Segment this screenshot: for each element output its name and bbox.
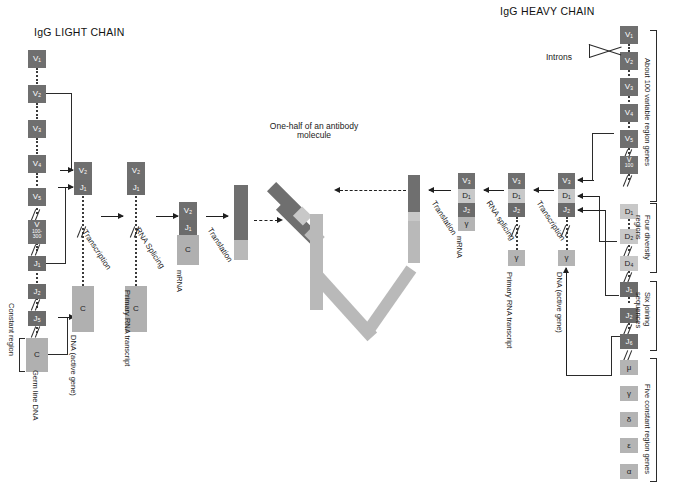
bracket-joining-sequences	[656, 281, 657, 351]
heavy-active-gene-label: DNA (active gene)	[555, 272, 564, 333]
light-splicing-label: RNA Splicing	[133, 226, 166, 270]
connector-arrow	[58, 187, 73, 188]
bracket-label-constant-region: Five constant region genes	[643, 384, 652, 484]
heavy-mrna-j: J₂	[458, 203, 475, 217]
sequence-break	[559, 225, 573, 237]
heavy-chain-polypeptide-tail	[362, 266, 417, 337]
bracket-label-diversity-region: Four diversity regions	[634, 215, 652, 275]
heavy-v-gene-5: V₅	[620, 130, 638, 148]
intron-dots	[36, 173, 38, 186]
heavy-transcript-j: J₂	[508, 203, 525, 217]
heavy-assembly-dashed-arrow	[340, 190, 406, 191]
bracket-tick	[19, 338, 25, 339]
light-active-v: V₂	[74, 162, 92, 180]
sequence-break	[29, 244, 43, 256]
diagram-canvas: IgG LIGHT CHAIN IgG HEAVY CHAIN One-half…	[0, 0, 685, 497]
introns-pointer-line	[589, 44, 622, 56]
light-chain-polypeptide-variable	[234, 185, 248, 240]
heavy-c-gene-delta: δ	[620, 412, 638, 427]
light-j-gene-2: J₂	[28, 284, 46, 299]
bracket-label-joining-sequences: Six joining sequences	[634, 292, 652, 354]
heavy-transcript-d: D₁	[508, 189, 525, 203]
light-active-j: J₁	[74, 180, 92, 195]
connector-line	[65, 188, 66, 264]
bracket-constant-region	[656, 358, 657, 482]
connector-line	[605, 210, 606, 296]
heavy-v-gene-1: V₁	[620, 26, 638, 44]
heavy-assembly-arrowhead	[334, 187, 340, 193]
connector-line	[46, 93, 72, 94]
sequence-break	[621, 175, 635, 187]
light-j-gene-3: J₅	[28, 311, 46, 326]
title-antibody-molecule: One-half of an antibody molecule	[259, 122, 369, 140]
title-heavy-chain: IgG HEAVY CHAIN	[500, 5, 595, 17]
light-v-gene-3: V₃	[28, 120, 46, 138]
introns-label: Introns	[546, 52, 572, 62]
heavy-chain-polypeptide-variable	[408, 175, 420, 212]
heavy-active-j: J₂	[558, 203, 575, 217]
intron-dots	[36, 273, 38, 283]
title-light-chain: IgG LIGHT CHAIN	[34, 26, 125, 38]
heavy-active-c: γ	[558, 250, 575, 266]
intron-dots	[628, 219, 630, 229]
translation-arrow	[206, 216, 228, 217]
heavy-transcript-c: γ	[508, 250, 525, 266]
bracket-tick	[650, 203, 657, 204]
intron-dots	[135, 196, 137, 286]
sequence-break	[509, 225, 523, 237]
light-mrna-label: mRNA	[175, 270, 184, 292]
light-mrna-c: C	[177, 235, 199, 265]
connector-line	[566, 375, 612, 376]
heavy-v-gene-many: V 100	[620, 156, 638, 174]
light-primary-transcript-label: Primary RNA transcript	[123, 290, 132, 370]
heavy-transcript-v: V₃	[508, 173, 525, 189]
light-v-gene-2: V₂	[28, 85, 46, 103]
intron-dots	[36, 138, 38, 154]
connector-line	[46, 263, 66, 264]
light-v-gene-4: V₄	[28, 155, 46, 173]
heavy-mrna-c: γ	[458, 217, 475, 231]
bracket-tick	[19, 371, 25, 372]
heavy-chain-polypeptide-constant	[408, 221, 420, 263]
heavy-mrna-d: D₁	[458, 189, 475, 203]
bracket-tick	[650, 201, 657, 202]
assembly-arrowhead	[277, 217, 283, 223]
connector-arrow	[60, 170, 73, 171]
bracket-tick	[650, 281, 657, 282]
light-v-gene-many: V 100-300	[28, 220, 46, 244]
light-active-c: C	[72, 286, 94, 332]
light-v-gene-5: V₅	[28, 188, 46, 206]
heavy-chain-polypeptide-hinge	[408, 212, 420, 221]
heavy-v-gene-2: V₂	[620, 52, 638, 70]
intron-dots	[628, 297, 630, 303]
light-transcript-v: V₂	[127, 162, 145, 180]
bracket-tick	[650, 30, 657, 31]
heavy-c-gene-gamma: γ	[620, 386, 638, 401]
light-c-gene: C	[26, 338, 48, 372]
light-j-gene-1: J₁	[28, 256, 46, 271]
bracket-diversity-region	[656, 203, 657, 273]
connector-line	[592, 133, 593, 181]
heavy-translation-label: Translation	[429, 199, 458, 237]
connector-line	[599, 196, 600, 242]
intron-dots	[82, 196, 84, 286]
heavy-mrna-label: mRNA	[455, 236, 464, 258]
light-chain-polypeptide-constant	[234, 240, 248, 260]
bracket-tick	[650, 358, 657, 359]
connector-line	[599, 241, 617, 242]
connector-line	[71, 93, 72, 171]
connector-line	[611, 336, 612, 376]
heavy-splicing-arrow	[484, 190, 504, 191]
light-transcript-j: J₁	[127, 180, 145, 195]
connector-line	[592, 133, 614, 134]
sequence-break	[29, 326, 43, 338]
splicing-arrow	[156, 216, 178, 217]
connector-line	[48, 354, 68, 355]
connector-line	[605, 295, 619, 296]
assembly-dashed-arrow	[254, 220, 278, 221]
constant-region-bracket	[19, 338, 20, 372]
light-v-gene-1: V₁	[28, 50, 46, 68]
heavy-c-gene-epsilon: ε	[620, 438, 638, 453]
light-constant-region-label: Constant region	[7, 303, 16, 356]
light-mrna-j: J₁	[179, 220, 197, 235]
